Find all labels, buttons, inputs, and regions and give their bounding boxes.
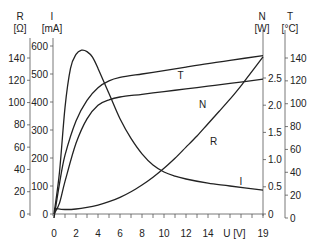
tick-label: 6 [117,228,123,239]
tick-label: 100 [8,97,25,108]
tick-label: 80 [290,121,302,132]
tick-label: 100 [290,98,307,109]
tick-label: 40 [14,164,26,175]
tick-label: 20 [14,186,26,197]
tick-label: 600 [31,41,48,52]
axis-name: N [258,11,265,22]
axis-t: T[°C]020406080100120140 [282,11,308,224]
curve-labels-layer: TNRI [177,70,242,187]
tick-label: 2.5 [268,73,282,84]
tick-label: 0 [19,209,25,220]
axis-name: R [16,11,23,22]
tick-label: 14 [202,228,214,239]
tick-label: 120 [8,75,25,86]
tick-label: 140 [290,53,307,64]
curve-t [54,56,263,218]
tick-label: 40 [290,167,302,178]
tick-label: 200 [31,153,48,164]
axis-unit: [mA] [42,23,63,34]
tick-label: 400 [31,97,48,108]
tick-label: 2 [73,228,79,239]
tick-label: 1.0 [268,154,282,165]
curve-label-r: R [210,136,217,147]
tick-label: 8 [139,228,145,239]
tick-label: 1.5 [268,127,282,138]
tick-label: 0 [42,209,48,220]
axis-unit: [°C] [282,23,299,34]
axis-name: I [51,11,54,22]
curve-n [54,79,263,214]
tick-label: 0.5 [268,181,282,192]
axes-layer: R[Ω]020406080100120140I[mA]0100200300400… [8,11,307,239]
tick-label: 120 [290,75,307,86]
curve-i [54,50,263,214]
axis-r: R[Ω]020406080100120140 [8,11,30,220]
tick-label: 80 [14,119,26,130]
tick-label: 0 [51,228,57,239]
tick-label: 60 [14,142,26,153]
x-axis-label: U [V] [223,228,245,239]
tick-label: 2.0 [268,100,282,111]
axis-unit: [W] [255,23,270,34]
tick-label: 100 [31,181,48,192]
tick-label: 4 [95,228,101,239]
axis-u: 0246810121419U [V] [51,214,269,239]
tick-label: 140 [8,53,25,64]
tick-label: 300 [31,125,48,136]
tick-label: 20 [290,190,302,201]
curve-label-t: T [177,70,183,81]
tick-label: 10 [158,228,170,239]
tick-label: 12 [180,228,192,239]
axis-n: N[W]00.51.01.52.02.5 [255,11,283,220]
axis-unit: [Ω] [13,23,26,34]
tick-label: 500 [31,69,48,80]
multi-axis-line-chart: R[Ω]020406080100120140I[mA]0100200300400… [0,0,312,249]
curve-label-i: I [240,176,243,187]
curves-layer [54,50,263,218]
axis-name: T [287,11,293,22]
tick-label: 0 [268,209,274,220]
tick-label: 19 [257,228,269,239]
tick-label: 60 [290,144,302,155]
tick-label: 0 [290,213,296,224]
curve-label-n: N [199,99,206,110]
